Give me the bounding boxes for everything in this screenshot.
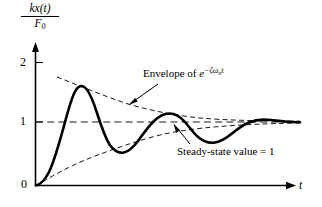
y-axis-label: kx(t) F0 [17,3,63,31]
x-axis-arrowhead [286,182,296,189]
envelope-leader [129,84,159,105]
envelope-exponent-main: −ζω [204,66,218,75]
y-axis-label-denominator-main: F [34,17,41,29]
y-axis-label-numerator: kx(t) [17,3,63,16]
envelope-annotation: Envelope of e−ζωnt [143,67,224,79]
damped-response-figure: kx(t) F0 t 2 1 0 Envelope of e−ζωnt Stea… [0,0,322,207]
x-axis-label: t [299,179,302,191]
steady-state-annotation: Steady-state value = 1 [177,145,275,157]
envelope-annotation-prefix: Envelope of [143,67,199,79]
envelope-leader-line [134,84,158,101]
y-axis-label-denominator-sub: 0 [42,22,46,31]
y-tick-label-2: 2 [20,56,26,68]
y-tick-label-0: 0 [21,178,27,190]
y-axis-label-denominator: F0 [17,17,63,31]
damped-response-curve [36,86,300,186]
y-axis-arrowhead [32,42,39,52]
envelope-annotation-exponent: −ζωnt [204,66,224,75]
upper-envelope-curve [57,77,300,121]
envelope-exponent-tail: t [221,66,223,75]
plot-canvas [0,0,322,207]
y-tick-label-1: 1 [20,115,26,127]
